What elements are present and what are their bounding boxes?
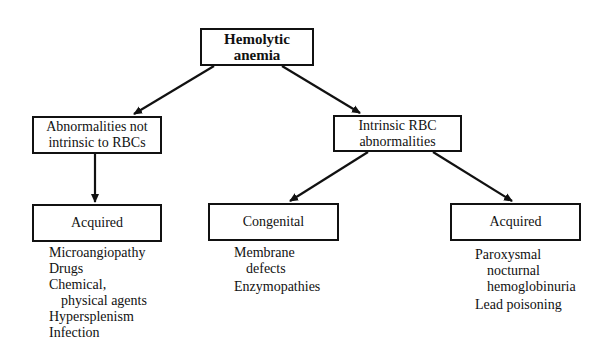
arrow-intrinsic-to-congenital: [290, 152, 368, 201]
node-label: Acquired: [489, 214, 541, 230]
list-congenital-causes: Membrane defects Enzymopathies: [234, 245, 320, 295]
node-not-intrinsic-to-rbcs: Abnormalities not intrinsic to RBCs: [32, 116, 162, 154]
list-item: Lead poisoning: [475, 297, 576, 313]
list-item-continuation: defects: [234, 261, 320, 277]
list-item: Paroxysmal: [475, 247, 576, 263]
list-item: Drugs: [49, 261, 147, 277]
list-item: Membrane: [234, 245, 320, 261]
node-congenital: Congenital: [208, 203, 339, 241]
node-label-line: intrinsic to RBCs: [48, 135, 145, 151]
list-item: Enzymopathies: [234, 279, 320, 295]
list-item-continuation: hemoglobinuria: [475, 279, 576, 295]
node-label: Congenital: [243, 214, 304, 230]
node-label-line: Intrinsic RBC: [358, 118, 436, 134]
list-item-continuation: nocturnal: [475, 263, 576, 279]
list-item: Chemical,: [49, 277, 147, 293]
list-item-continuation: physical agents: [49, 293, 147, 309]
node-label-line: abnormalities: [359, 134, 435, 150]
root-node-label: Hemolytic anemia: [202, 31, 312, 63]
list-item: Infection: [49, 325, 147, 341]
node-label-line: Abnormalities not: [46, 119, 148, 135]
arrow-root-to-intrinsic: [282, 66, 360, 113]
node-label: Acquired: [71, 215, 123, 231]
root-node-hemolytic-anemia: Hemolytic anemia: [200, 28, 314, 66]
node-intrinsic-rbc-abnormalities: Intrinsic RBC abnormalities: [333, 115, 462, 152]
list-intrinsic-acquired-causes: Paroxysmal nocturnal hemoglobinuria Lead…: [475, 247, 576, 313]
list-item: Hypersplenism: [49, 309, 147, 325]
list-extrinsic-acquired-causes: Microangiopathy Drugs Chemical, physical…: [49, 245, 147, 341]
node-acquired-intrinsic: Acquired: [450, 203, 581, 241]
node-acquired-extrinsic: Acquired: [32, 204, 162, 242]
list-item: Microangiopathy: [49, 245, 147, 261]
arrow-root-to-not-intrinsic: [134, 66, 214, 114]
arrow-intrinsic-to-acquired-right: [433, 152, 512, 201]
